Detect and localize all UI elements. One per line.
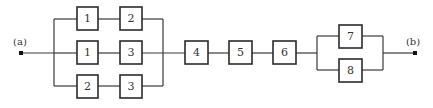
block-r3c2: 3 — [120, 75, 142, 98]
block-5: 5 — [229, 41, 252, 64]
block-label: 1 — [84, 46, 91, 59]
reliability-block-diagram: (a) (b) 1 2 1 3 2 3 — [0, 0, 433, 108]
block-label: 4 — [193, 46, 200, 59]
block-label: 2 — [128, 12, 135, 25]
terminal-b-dot — [413, 51, 417, 55]
block-r1c2: 2 — [120, 7, 142, 30]
block-r1c1: 1 — [77, 7, 98, 30]
diagram-svg: (a) (b) 1 2 1 3 2 3 — [0, 0, 433, 108]
block-label: 7 — [347, 30, 354, 43]
block-label: 1 — [84, 12, 91, 25]
block-label: 6 — [281, 46, 288, 59]
block-6: 6 — [273, 41, 296, 64]
block-r2c1: 1 — [77, 41, 98, 64]
terminal-b-label: (b) — [406, 36, 420, 47]
block-label: 2 — [84, 80, 91, 93]
block-r3c1: 2 — [77, 75, 98, 98]
terminal-a-dot — [19, 51, 23, 55]
block-label: 8 — [347, 64, 354, 77]
block-label: 3 — [128, 80, 135, 93]
block-8: 8 — [339, 59, 362, 82]
block-r2c2: 3 — [120, 41, 142, 64]
terminal-b: (b) — [406, 36, 420, 55]
block-7: 7 — [339, 25, 362, 48]
block-label: 5 — [237, 46, 244, 59]
block-label: 3 — [128, 46, 135, 59]
block-4: 4 — [185, 41, 208, 64]
terminal-a: (a) — [13, 36, 27, 55]
terminal-a-label: (a) — [13, 36, 27, 47]
